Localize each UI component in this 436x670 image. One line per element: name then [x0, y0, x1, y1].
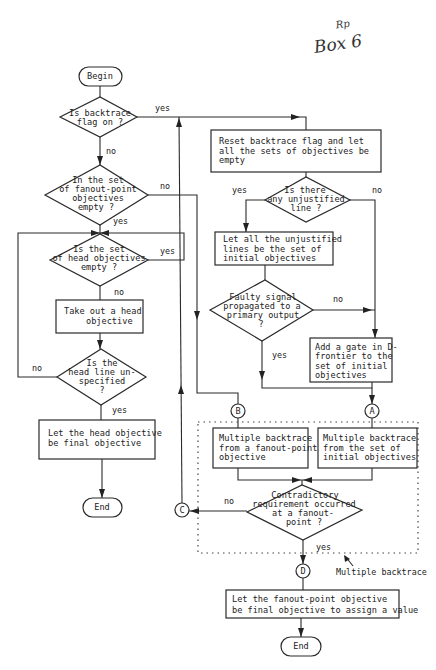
return-line-c	[179, 117, 182, 503]
arrow-up-icon	[176, 118, 182, 127]
process-let-unjustified-line1: Let all the unjustified	[223, 234, 342, 244]
process-mb-initial-line1: Multiple backtrace	[323, 433, 416, 443]
process-fanout-final-line2: be final objective to assign a value	[232, 605, 418, 615]
arrow-down-icon	[372, 329, 378, 338]
connector-b-label: B	[235, 406, 240, 416]
decision-head-empty-line3: empty ?	[81, 262, 117, 272]
connector-a-label: A	[369, 406, 375, 416]
multiple-backtrace-label: Multiple backtrace	[336, 567, 427, 577]
edge-label-yes: yes	[272, 350, 287, 360]
edge-label-no: no	[160, 181, 170, 191]
arrow-down-icon	[298, 628, 304, 637]
process-reset-line3: empty	[219, 155, 245, 165]
edge-label-no: no	[333, 294, 343, 304]
process-head-final-line1: Let the head objective	[48, 428, 162, 438]
arrow-up-icon	[178, 385, 184, 394]
unjustified-no-line	[350, 200, 375, 338]
edge-label-no: no	[114, 287, 124, 297]
arrow-down-icon	[194, 311, 200, 320]
process-take-head-line2: objective	[86, 316, 133, 326]
edge-label-no: no	[224, 496, 234, 506]
process-add-gate-line4: objectives	[315, 370, 367, 380]
arrow-left-icon	[303, 477, 312, 483]
end-left-label: End	[94, 502, 110, 512]
arrow-right-icon	[292, 477, 301, 483]
annotation-label: Box 6	[312, 30, 364, 57]
edge-label-yes: yes	[112, 405, 127, 415]
arrow-down-icon	[243, 223, 249, 232]
fanout-no-line	[148, 195, 238, 404]
process-head-final-line2: be final objective	[48, 438, 141, 448]
decision-head-unspecified-line4: ?	[99, 385, 104, 395]
process-let-unjustified-line3: initial objectives	[223, 253, 316, 263]
edge-label-yes: yes	[160, 246, 175, 256]
connector-c-label: C	[179, 505, 184, 515]
mb-initial-out-line	[302, 468, 372, 480]
handwritten-annotation: Rp Box 6	[312, 18, 364, 57]
decision-faulty-line4: ?	[258, 319, 263, 329]
decision-backtrace-flag-line2: flag on ?	[77, 117, 124, 127]
decision-fanout-empty-line4: empty ?	[78, 202, 114, 212]
arrow-down-icon	[99, 489, 105, 498]
arrow-down-icon	[259, 371, 265, 380]
edge-label-no: no	[32, 363, 42, 373]
process-reset-line1: Reset backtrace flag and let	[219, 136, 364, 146]
arrow-right-icon	[291, 114, 300, 120]
arrow-right-icon	[363, 307, 372, 313]
begin-label: Begin	[87, 71, 113, 81]
edge-label-yes: yes	[155, 103, 170, 113]
decision-contradictory-line4: point ?	[286, 517, 322, 527]
connector-d-label: D	[300, 566, 305, 576]
process-mb-fanout-line1: Multiple backtrace	[219, 433, 312, 443]
arrow-down-icon	[369, 395, 375, 404]
process-add-gate-line2: frontier to the	[315, 351, 393, 361]
flowchart: Rp Box 6 Begin Is backtrace flag on ? ye…	[0, 0, 436, 670]
process-fanout-final-line1: Let the fanout-point objective	[232, 594, 387, 604]
unjustified-yes-line	[246, 200, 265, 232]
backtrace-yes-line	[137, 117, 306, 130]
arrow-down-icon	[97, 340, 103, 349]
annotation-initials: Rp	[334, 18, 351, 31]
edge-label-no: no	[106, 146, 116, 156]
edge-label-no: no	[372, 185, 382, 195]
edge-label-yes: yes	[232, 185, 247, 195]
end-right-label: End	[293, 641, 309, 651]
process-take-head-line1: Take out a head	[64, 306, 142, 316]
arrow-down-icon	[300, 555, 306, 564]
arrow-down-icon	[97, 156, 103, 165]
decision-unjustified-line3: line ?	[290, 203, 321, 213]
edge-label-yes: yes	[316, 542, 331, 552]
edge-label-yes: yes	[113, 216, 128, 226]
process-mb-fanout-line3: objective	[219, 452, 266, 462]
process-mb-initial-line3: initial objectives	[323, 452, 416, 462]
arrow-left-icon	[190, 508, 199, 514]
